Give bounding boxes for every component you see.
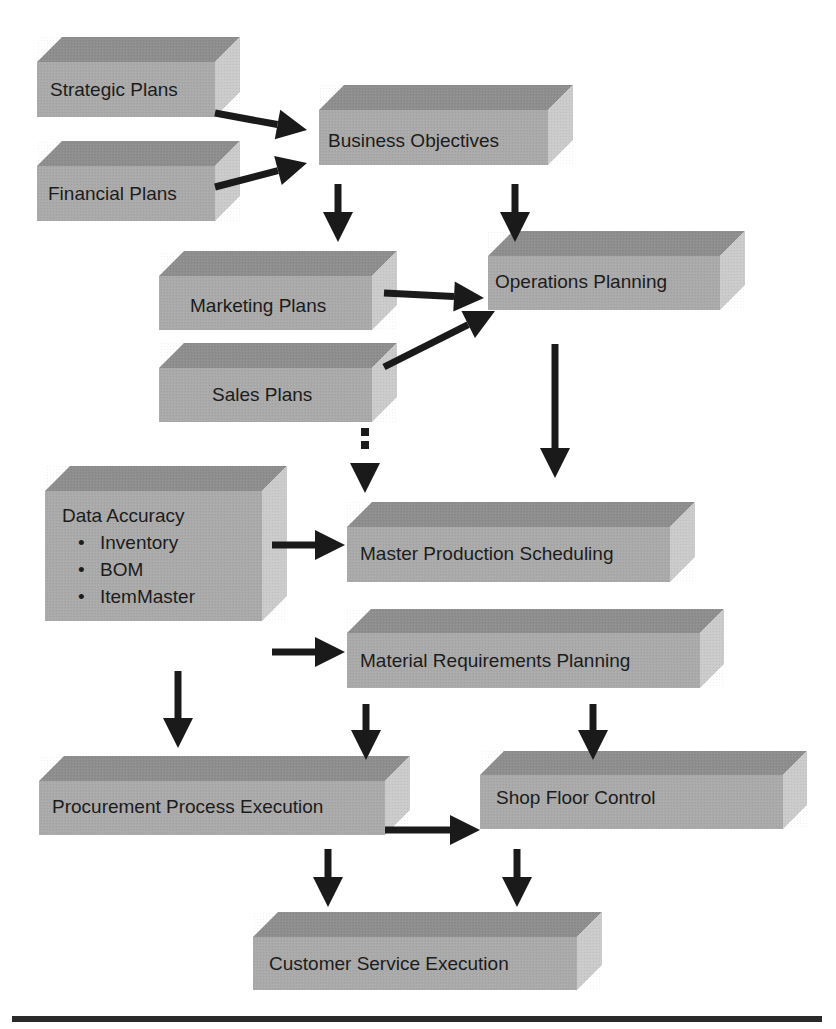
box-label-financial-plans: Financial Plans (48, 182, 177, 205)
arrow-head (315, 530, 345, 560)
arrow-head (502, 877, 532, 907)
arrow-shaft (590, 704, 597, 730)
arrow-shaft (325, 849, 332, 877)
arrow-shaft (272, 649, 315, 656)
arrow-head (313, 877, 343, 907)
arrow-shaft (552, 344, 559, 448)
arrow-shaft (385, 827, 450, 834)
arrow-head (350, 463, 380, 493)
box-customer-service-execution (253, 912, 602, 990)
arrow-shop-floor-to-customer-icon (502, 849, 532, 907)
arrow-shaft (175, 671, 182, 718)
box-title: Financial Plans (48, 183, 177, 204)
arrow-head (540, 448, 570, 478)
arrow-marketing-to-operations-icon (384, 282, 484, 312)
box-texture (37, 141, 240, 221)
arrow-head (275, 110, 307, 140)
arrow-business-to-marketing-icon (323, 184, 353, 242)
box-title: Data Accuracy (62, 502, 195, 529)
arrow-shaft (512, 184, 519, 212)
box-title: Master Production Scheduling (360, 543, 613, 564)
box-label-data-accuracy: Data AccuracyInventoryBOMItemMaster (62, 502, 195, 610)
arrow-head (274, 156, 307, 185)
arrow-head (315, 637, 345, 667)
box-business-objectives (319, 85, 573, 165)
box-title: Customer Service Execution (269, 953, 509, 974)
box-texture (253, 912, 602, 990)
bullet-item: ItemMaster (62, 583, 195, 610)
box-texture (37, 37, 240, 117)
bullet-item: BOM (62, 556, 195, 583)
box-texture (319, 85, 573, 165)
box-label-business-objectives: Business Objectives (328, 129, 499, 152)
box-label-procurement-process-execution: Procurement Process Execution (52, 795, 323, 818)
arrow-shaft (272, 542, 315, 549)
arrow-dot (361, 428, 369, 436)
arrow-head (351, 730, 381, 760)
box-label-sales-plans: Sales Plans (212, 383, 312, 406)
box-title: Procurement Process Execution (52, 796, 323, 817)
box-label-marketing-plans: Marketing Plans (190, 294, 326, 317)
arrow-head (163, 718, 193, 748)
box-title: Material Requirements Planning (360, 650, 630, 671)
box-label-operations-planning: Operations Planning (495, 270, 667, 293)
box-title: Sales Plans (212, 384, 312, 405)
box-title: Marketing Plans (190, 295, 326, 316)
arrow-sales-to-mps-dotted-icon (350, 428, 380, 493)
arrow-data-to-procurement-icon (163, 671, 193, 748)
arrow-head (453, 282, 484, 312)
box-title: Business Objectives (328, 130, 499, 151)
box-strategic-plans (37, 37, 240, 117)
box-label-shop-floor-control: Shop Floor Control (496, 786, 655, 809)
box-label-strategic-plans: Strategic Plans (50, 78, 178, 101)
arrow-dot (361, 441, 369, 449)
arrow-operations-to-mps-icon (540, 344, 570, 478)
box-label-material-requirements-planning: Material Requirements Planning (360, 649, 630, 672)
box-title: Operations Planning (495, 271, 667, 292)
arrow-shaft (214, 110, 278, 128)
arrow-shaft (335, 184, 342, 212)
arrow-mrp-to-procurement-icon (351, 704, 381, 760)
mrp-planning-flow-diagram: Strategic PlansFinancial PlansBusiness O… (0, 0, 836, 1029)
arrow-shaft (363, 704, 370, 730)
arrow-data-accuracy-to-mrp-icon (272, 637, 345, 667)
arrow-shaft (514, 849, 521, 877)
box-marketing-plans (159, 251, 397, 330)
box-title: Strategic Plans (50, 79, 178, 100)
box-financial-plans (37, 141, 240, 221)
arrow-head (323, 212, 353, 242)
bullet-item: Inventory (62, 529, 195, 556)
box-texture (159, 251, 397, 330)
box-label-customer-service-execution: Customer Service Execution (269, 952, 509, 975)
box-label-master-production-scheduling: Master Production Scheduling (360, 542, 613, 565)
arrow-procurement-to-customer-icon (313, 849, 343, 907)
box-title: Shop Floor Control (496, 787, 655, 808)
arrow-sales-to-operations-icon (382, 311, 495, 370)
arrow-strategic-to-business-icon (214, 110, 307, 140)
arrow-head (450, 815, 480, 845)
